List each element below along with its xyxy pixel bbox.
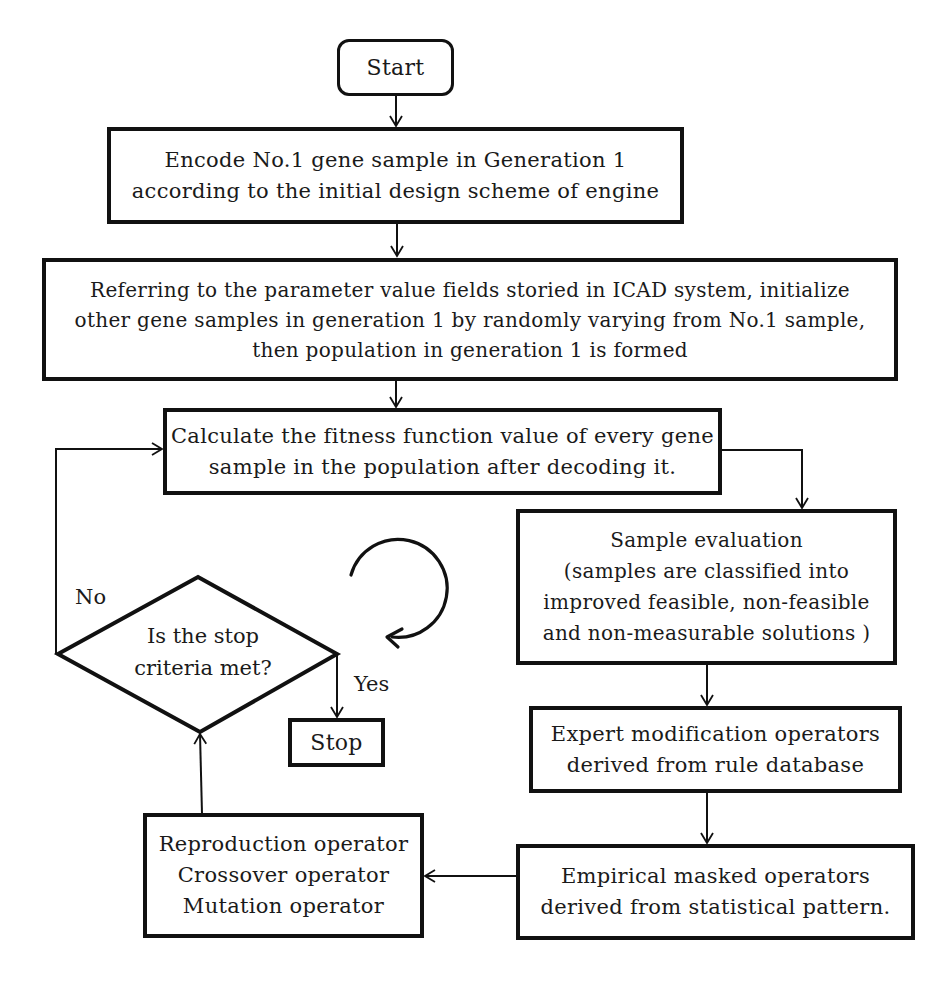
loop-arrow-icon [351, 539, 447, 647]
decision-line-2: criteria met? [118, 652, 288, 684]
fitness-line-1: Calculate the fitness function value of … [171, 421, 714, 452]
initialize-line-1: Referring to the parameter value fields … [90, 275, 850, 305]
empirical-line-2: derived from statistical pattern. [541, 892, 891, 923]
evaluation-line-4: and non-measurable solutions ) [543, 618, 871, 649]
expert-node: Expert modification operators derived fr… [529, 706, 902, 793]
stop-node: Stop [288, 718, 385, 767]
decision-line-1: Is the stop [118, 620, 288, 652]
fitness-line-2: sample in the population after decoding … [209, 452, 676, 483]
arrow-operators-to-decision [200, 734, 202, 814]
encode-node: Encode No.1 gene sample in Generation 1 … [107, 127, 684, 224]
expert-line-1: Expert modification operators [551, 719, 880, 750]
no-label: No [75, 585, 106, 609]
evaluation-line-2: (samples are classified into [564, 556, 849, 587]
expert-line-2: derived from rule database [567, 750, 864, 781]
operators-node: Reproduction operator Crossover operator… [143, 813, 424, 938]
start-node: Start [337, 39, 454, 96]
evaluation-line-3: improved feasible, non-feasible [543, 587, 869, 618]
evaluation-line-1: Sample evaluation [610, 525, 803, 556]
operators-line-2: Crossover operator [178, 860, 390, 891]
decision-text: Is the stop criteria met? [118, 620, 288, 684]
encode-line-2: according to the initial design scheme o… [132, 176, 659, 207]
initialize-line-3: then population in generation 1 is forme… [252, 335, 688, 365]
operators-line-3: Mutation operator [183, 891, 384, 922]
operators-line-1: Reproduction operator [159, 829, 409, 860]
fitness-node: Calculate the fitness function value of … [163, 408, 722, 495]
stop-label: Stop [310, 727, 362, 758]
arrow-fitness-to-evaluation [721, 450, 802, 508]
empirical-node: Empirical masked operators derived from … [516, 844, 915, 940]
initialize-node: Referring to the parameter value fields … [42, 258, 898, 381]
encode-line-1: Encode No.1 gene sample in Generation 1 [165, 145, 627, 176]
flowchart: Start Encode No.1 gene sample in Generat… [0, 0, 950, 982]
empirical-line-1: Empirical masked operators [561, 861, 870, 892]
evaluation-node: Sample evaluation (samples are classifie… [516, 509, 897, 665]
yes-label: Yes [354, 672, 389, 696]
initialize-line-2: other gene samples in generation 1 by ra… [75, 305, 866, 335]
start-label: Start [367, 52, 425, 83]
